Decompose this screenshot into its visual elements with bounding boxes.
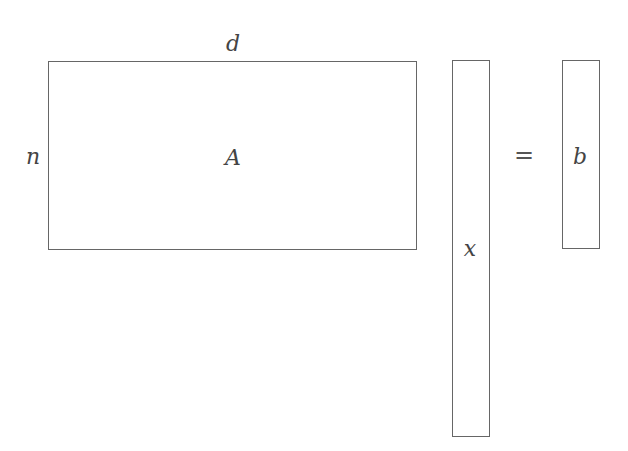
equals-sign: = bbox=[514, 143, 534, 167]
vector-x-label: x bbox=[464, 238, 476, 260]
vector-b-label: b bbox=[573, 146, 587, 168]
matrix-a-label: A bbox=[225, 147, 241, 169]
rows-label-n: n bbox=[26, 146, 40, 168]
cols-label-d: d bbox=[226, 33, 240, 55]
